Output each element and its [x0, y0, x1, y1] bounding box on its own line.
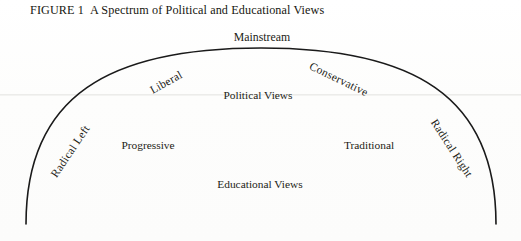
arc-label-mainstream: Mainstream	[234, 30, 290, 45]
interior-label-traditional: Traditional	[344, 139, 394, 151]
figure-container: FIGURE 1A Spectrum of Political and Educ…	[0, 0, 521, 241]
interior-label-educational-views: Educational Views	[217, 178, 302, 190]
interior-label-political-views: Political Views	[223, 89, 292, 101]
interior-label-progressive: Progressive	[121, 139, 174, 151]
arc-path	[26, 48, 496, 224]
